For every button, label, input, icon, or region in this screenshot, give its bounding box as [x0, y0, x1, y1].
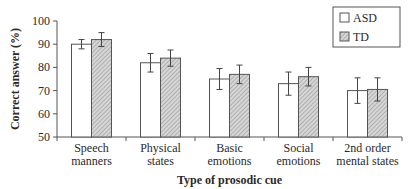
x-tick-label: manners: [71, 154, 112, 168]
legend-label-td: TD: [353, 30, 369, 44]
x-tick-label: mental states: [336, 154, 399, 168]
x-tick-label: Social: [284, 141, 315, 155]
y-tick-label: 60: [38, 107, 50, 121]
y-axis-title: Correct answer (%): [8, 28, 22, 130]
y-tick-label: 100: [32, 14, 50, 28]
legend-swatch-td: [340, 32, 349, 41]
y-tick-label: 80: [38, 60, 50, 74]
x-tick-label: Speech: [74, 141, 109, 155]
bar-chart: Correct answer (%) 5060708090100 Speechm…: [0, 0, 417, 189]
y-tick-label: 90: [38, 37, 50, 51]
y-tick-label: 70: [38, 84, 50, 98]
bar-asd: [72, 44, 92, 137]
bar-asd: [141, 63, 161, 137]
legend: ASDTD: [333, 7, 400, 47]
legend-swatch-asd: [340, 13, 349, 22]
x-tick-label: states: [147, 154, 174, 168]
x-axis-title: Type of prosodic cue: [177, 173, 283, 187]
legend-label-asd: ASD: [353, 11, 377, 25]
bar-td: [92, 40, 112, 137]
x-tick-label: emotions: [277, 154, 321, 168]
x-tick-label: Physical: [140, 141, 181, 155]
x-tick-label: 2nd order: [344, 141, 390, 155]
x-axis-labels: SpeechmannersPhysicalstatesBasicemotions…: [71, 141, 399, 187]
y-tick-label: 50: [38, 130, 50, 144]
bars: [72, 33, 388, 137]
x-tick-label: Basic: [216, 141, 243, 155]
x-tick-label: emotions: [208, 154, 252, 168]
bar-td: [161, 58, 181, 137]
y-axis-label-group: Correct answer (%): [8, 28, 22, 130]
